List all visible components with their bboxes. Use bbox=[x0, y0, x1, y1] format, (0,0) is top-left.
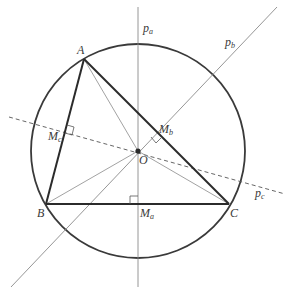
label-pa-sub: a bbox=[149, 27, 153, 36]
label-pa: pa bbox=[142, 21, 153, 36]
label-pb: pb bbox=[224, 35, 235, 50]
label-pc-sub: c bbox=[261, 192, 265, 201]
label-pc-main: p bbox=[254, 186, 261, 200]
circumcircle-diagram: A B C O Ma Mb Mc pa pb pc bbox=[0, 0, 297, 293]
label-O: O bbox=[139, 153, 148, 167]
bisector-pb bbox=[11, 7, 277, 287]
label-C: C bbox=[230, 206, 239, 220]
label-pb-sub: b bbox=[231, 41, 235, 50]
label-Mb-sub: b bbox=[169, 128, 173, 137]
label-B: B bbox=[37, 206, 45, 220]
label-pb-main: p bbox=[224, 35, 231, 49]
radius-OB bbox=[46, 151, 138, 204]
label-pc: pc bbox=[254, 186, 265, 201]
label-Ma: Ma bbox=[139, 206, 154, 221]
label-Ma-sub: a bbox=[150, 212, 154, 221]
right-angle-marker-ma bbox=[130, 196, 138, 204]
label-pa-main: p bbox=[142, 21, 149, 35]
label-Mc-sub: c bbox=[58, 135, 62, 144]
label-Mb: Mb bbox=[158, 122, 173, 137]
label-A: A bbox=[76, 43, 85, 57]
